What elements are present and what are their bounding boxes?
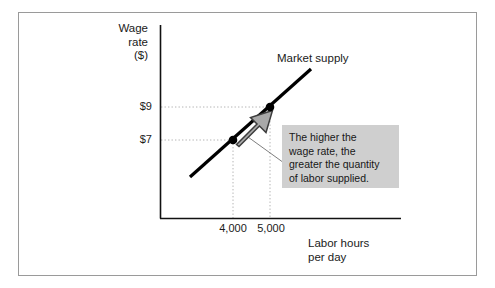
x-tick-label-5000: 5,000: [246, 222, 296, 235]
callout-text: The higher the wage rate, the greater th…: [289, 131, 397, 186]
figure-canvas: Wage rate ($) Labor hours per day $9 $7 …: [0, 0, 495, 288]
y-tick-label-7: $7: [108, 133, 152, 146]
movement-arrow: [237, 111, 273, 147]
x-axis-label: Labor hours per day: [308, 237, 418, 264]
data-point-9-5000: [266, 103, 275, 112]
y-tick-label-9: $9: [108, 100, 152, 113]
data-point-7-4000: [229, 136, 238, 145]
market-supply-label: Market supply: [277, 52, 349, 66]
y-axis-label: Wage rate ($): [62, 22, 148, 63]
